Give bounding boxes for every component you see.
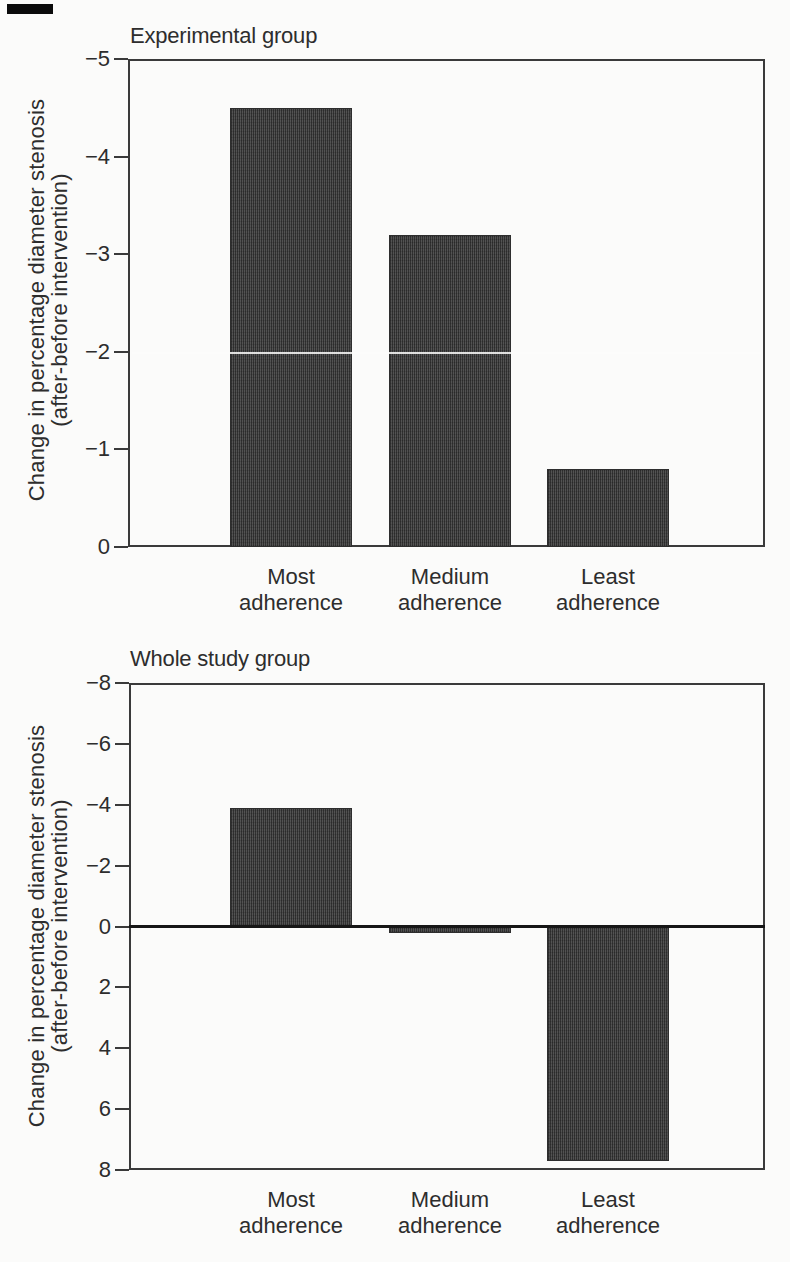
zero-baseline: [129, 925, 765, 928]
bar-least-adherence: [547, 469, 669, 547]
x-category-label: Leastadherence: [556, 1187, 660, 1239]
chart-whole-study-group: Whole study group Change in percentage d…: [0, 0, 790, 1262]
bar-most-adherence: [230, 108, 352, 547]
y-tick: [115, 926, 129, 928]
y-tick-label: −6: [86, 730, 111, 758]
y-tick-label: −2: [86, 852, 111, 880]
y-tick-label: 4: [99, 1034, 111, 1062]
y-tick-label: −4: [86, 791, 111, 819]
x-category-line1: Most: [239, 1187, 343, 1213]
y-tick: [115, 682, 129, 684]
bar-least-adherence: [547, 927, 669, 1161]
x-category-line2: adherence: [398, 1213, 502, 1239]
y-tick: [115, 804, 129, 806]
x-category-line1: Least: [556, 1187, 660, 1213]
y-tick: [115, 986, 129, 988]
y-tick-label: 0: [99, 913, 111, 941]
y-tick: [115, 1047, 129, 1049]
figure-canvas: Experimental group Change in percentage …: [0, 0, 790, 1262]
y-tick: [115, 865, 129, 867]
x-category-label: Mediumadherence: [398, 1187, 502, 1239]
x-category-line2: adherence: [556, 1213, 660, 1239]
x-category-line1: Medium: [398, 1187, 502, 1213]
y-tick: [115, 1169, 129, 1171]
y-tick-label: −8: [86, 669, 111, 697]
y-tick-label: 6: [99, 1095, 111, 1123]
bar-most-adherence: [230, 808, 352, 927]
y-tick: [115, 743, 129, 745]
x-category-label: Mostadherence: [239, 1187, 343, 1239]
chart-title: Whole study group: [130, 646, 310, 672]
bar-medium-adherence: [389, 235, 511, 547]
scan-artifact-line: [132, 352, 761, 354]
y-tick: [115, 1108, 129, 1110]
y-axis-label-line2: (after-before intervention): [47, 799, 73, 1053]
x-category-line2: adherence: [239, 1213, 343, 1239]
y-tick-label: 2: [99, 973, 111, 1001]
y-tick-label: 8: [99, 1156, 111, 1184]
